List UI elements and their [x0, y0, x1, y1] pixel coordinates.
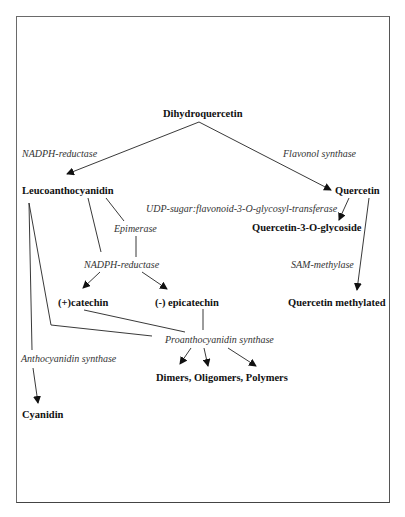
enzyme-flavonol-synthase: Flavonol synthase — [283, 149, 356, 159]
enzyme-sam-methylase: SAM-methylase — [291, 260, 354, 270]
line-leuco-to-anthocyanidin — [29, 203, 32, 350]
node-dihydroquercetin: Dihydroquercetin — [163, 109, 243, 120]
arrow-to-oligomers — [204, 348, 208, 366]
arrow-to-polymers — [228, 348, 256, 366]
enzyme-udp-transferase: UDP-sugar:flavonoid-3-O-glycosyl-transfe… — [146, 204, 337, 214]
enzyme-proanthocyanidin-synthase: Proanthocyanidin synthase — [165, 335, 274, 345]
node-leucoanthocyanidin: Leucoanthocyanidin — [22, 186, 114, 197]
enzyme-nadph-reductase-1: NADPH-reductase — [22, 149, 97, 159]
arrow-to-dimers — [180, 348, 191, 364]
node-epicatechin: (-) epicatechin — [155, 298, 219, 309]
node-catechin: (+)catechin — [58, 298, 108, 309]
enzyme-nadph-reductase-2: NADPH-reductase — [84, 260, 159, 270]
enzyme-anthocyanidin-synthase: Anthocyanidin synthase — [21, 354, 116, 364]
arrow-to-cyanidin — [33, 368, 38, 403]
line-catechin-to-proanthocyanidin — [84, 310, 185, 332]
enzyme-epimerase: Epimerase — [114, 224, 157, 234]
line-leuco-to-epimerase — [106, 198, 124, 221]
arrow-to-quercetin-glycoside — [339, 198, 349, 220]
line-leuco-to-nadph — [88, 198, 101, 252]
arrow-to-quercetin-methylated — [357, 198, 369, 290]
node-polymers: Dimers, Oligomers, Polymers — [156, 373, 288, 384]
arrow-to-catechin — [83, 272, 100, 288]
node-quercetin-methylated: Quercetin methylated — [288, 298, 386, 309]
node-quercetin-glycoside: Quercetin-3-O-glycoside — [252, 223, 361, 234]
node-quercetin: Quercetin — [335, 186, 380, 197]
node-cyanidin: Cyanidin — [22, 410, 63, 421]
arrow-to-epicatechin — [142, 272, 167, 289]
